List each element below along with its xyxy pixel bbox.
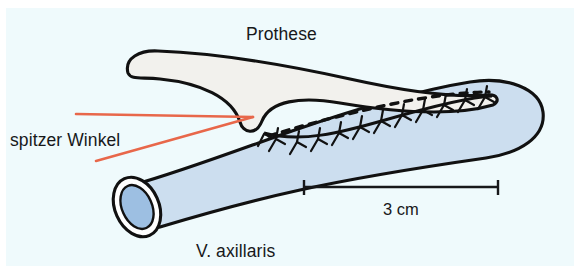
label-v-axillaris: V. axillaris [196, 241, 275, 261]
label-spitzer-winkel: spitzer Winkel [10, 130, 120, 150]
figure-root: 3 cm Prothese spitzer Winkel V. axillari… [0, 0, 587, 274]
anastomosis-diagram: 3 cm Prothese spitzer Winkel V. axillari… [0, 0, 587, 274]
label-prothese: Prothese [246, 24, 317, 44]
scale-bar: 3 cm [303, 180, 499, 218]
scale-bar-label: 3 cm [383, 200, 419, 218]
angle-line-upper [76, 114, 253, 117]
